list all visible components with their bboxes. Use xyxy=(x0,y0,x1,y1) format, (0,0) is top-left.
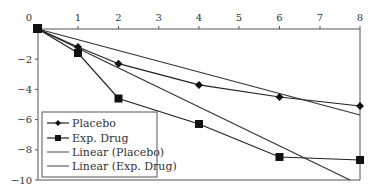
diamond-marker xyxy=(195,81,203,89)
y-tick-label: −2 xyxy=(17,54,32,65)
x-tick-label: 1 xyxy=(75,12,81,23)
square-marker xyxy=(195,120,203,128)
x-tick-label: 8 xyxy=(357,12,363,23)
x-tick-label: 4 xyxy=(196,12,202,23)
square-marker xyxy=(74,49,82,57)
placebo-series xyxy=(38,29,364,110)
legend-label: Placebo xyxy=(72,117,116,130)
square-marker xyxy=(276,153,284,161)
x-tick-label: 2 xyxy=(115,12,121,23)
y-tick-labels: −2 −4 −6 −8 −10 xyxy=(11,54,32,186)
y-tick-label: −4 xyxy=(17,84,32,95)
y-tick-label: −6 xyxy=(17,114,32,125)
square-marker xyxy=(115,95,123,103)
y-tick-label: −10 xyxy=(11,175,32,186)
legend-label: Linear (Placebo) xyxy=(72,146,164,159)
x-tick-label: 6 xyxy=(276,12,282,23)
x-tick-label: 3 xyxy=(156,12,162,23)
square-marker xyxy=(356,156,364,164)
y-tick-label: −8 xyxy=(17,144,32,155)
legend-label: Linear (Exp. Drug) xyxy=(72,160,177,173)
legend: Placebo Exp. Drug Linear (Placebo) Linea… xyxy=(42,112,177,177)
x-tick-label: 5 xyxy=(236,12,242,23)
diamond-marker xyxy=(356,102,364,110)
legend-label: Exp. Drug xyxy=(72,132,128,145)
linear-placebo-trendline xyxy=(38,29,360,115)
x-tick-labels: 0 1 2 3 4 5 6 7 8 xyxy=(26,12,363,23)
square-marker xyxy=(33,24,42,33)
square-icon xyxy=(55,135,61,141)
chart: 0 1 2 3 4 5 6 7 8 −2 −4 −6 −8 −10 xyxy=(0,0,381,193)
x-tick-label: 7 xyxy=(317,12,323,23)
x-tick-label: 0 xyxy=(26,12,32,23)
